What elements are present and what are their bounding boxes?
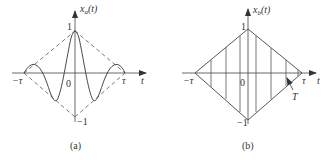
ytick-bottom-b: −1 bbox=[237, 117, 248, 128]
origin-b: 0 bbox=[240, 77, 245, 88]
xlabel-b: t bbox=[317, 75, 320, 86]
xtick-right-b: τ bbox=[302, 75, 306, 86]
xtick-right-a: τ bbox=[122, 75, 126, 86]
ytick-top-a: 1 bbox=[67, 21, 72, 32]
panel-a: xa(t) 1 −1 0 −τ τ t (a) bbox=[12, 3, 146, 152]
caption-a: (a) bbox=[70, 140, 81, 152]
period-label-b: T bbox=[292, 91, 299, 102]
ylabel-a: xa(t) bbox=[79, 3, 98, 16]
origin-a: 0 bbox=[66, 78, 71, 89]
period-arrow-b bbox=[287, 78, 293, 90]
panel-b: xb(t) 1 −1 0 −τ τ t T (b) bbox=[182, 4, 320, 152]
caption-b: (b) bbox=[242, 140, 254, 152]
ytick-bottom-a: −1 bbox=[77, 116, 88, 127]
xlabel-a: t bbox=[141, 75, 144, 86]
ylabel-b: xb(t) bbox=[252, 4, 271, 17]
xtick-left-a: −τ bbox=[12, 75, 23, 86]
sample-lines-b bbox=[211, 36, 298, 112]
xtick-left-b: −τ bbox=[183, 75, 194, 86]
figure-canvas: xa(t) 1 −1 0 −τ τ t (a) xb(t) bbox=[0, 0, 331, 160]
dashed-envelope-a bbox=[24, 31, 125, 117]
waveform-a bbox=[24, 31, 125, 101]
ytick-top-b: 1 bbox=[241, 21, 246, 32]
